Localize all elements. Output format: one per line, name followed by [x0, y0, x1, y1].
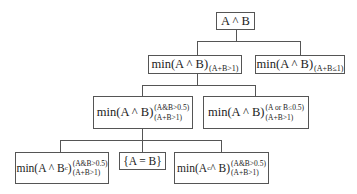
- node-n3-main: min(A ^ B): [97, 105, 154, 120]
- edge-to-n6: [142, 140, 143, 152]
- edge-root-down: [236, 29, 237, 41]
- node-n3: min(A ^ B) (A&B>0.5) (A+B>1): [93, 96, 193, 129]
- node-n5-sub: (A+B>1): [73, 169, 108, 177]
- node-n6-label: {A = B}: [123, 155, 162, 167]
- node-n4: min(A ^ B) (A or B≤0.5) (A+B>1): [203, 96, 309, 129]
- edge-to-n3: [142, 85, 143, 96]
- edge-level1-bar: [197, 41, 301, 42]
- node-n1-sub: (A+B>1): [209, 64, 238, 73]
- node-root: A ^ B: [216, 12, 255, 30]
- node-n1-main: min(A ^ B): [151, 57, 208, 72]
- edge-to-n1: [197, 41, 198, 55]
- node-n5-scripts: (A&B>0.5) (A+B>1): [73, 161, 108, 176]
- node-n7-sup: (A&B>0.5): [231, 160, 266, 168]
- node-n3-sup: (A&B>0.5): [154, 104, 189, 112]
- node-n2: min(A ^ B)(A+B≤1): [255, 55, 345, 74]
- node-n2-sub: (A+B≤1): [314, 64, 343, 73]
- node-n3-sub: (A+B>1): [154, 114, 189, 122]
- node-n5-sup: (A&B>0.5): [73, 160, 108, 168]
- node-n7-main-pre: min(A: [177, 162, 207, 174]
- node-n5: min(A ^ Bc) (A&B>0.5) (A+B>1): [15, 152, 109, 184]
- edge-to-n4: [255, 85, 256, 96]
- node-n5-main-post: ): [68, 162, 72, 174]
- node-n5-main-pre: min(A ^ B: [16, 162, 64, 174]
- node-n4-sub: (A+B>1): [266, 114, 305, 122]
- node-n7: min(Ac ^ B) (A&B>0.5) (A+B>1): [174, 152, 269, 184]
- edge-n3-down: [142, 129, 143, 140]
- node-n6: {A = B}: [119, 152, 166, 170]
- node-n7-main-post: ^ B): [210, 162, 230, 174]
- node-n7-sub: (A+B>1): [231, 169, 266, 177]
- node-n7-scripts: (A&B>0.5) (A+B>1): [231, 161, 266, 176]
- edge-n1-down: [197, 74, 198, 85]
- node-n4-main: min(A ^ B): [208, 105, 265, 120]
- edge-to-n7: [221, 140, 222, 152]
- node-n4-sup: (A or B≤0.5): [266, 104, 305, 112]
- edge-to-n2: [300, 41, 301, 55]
- edge-level3-bar: [60, 140, 222, 141]
- node-n4-scripts: (A or B≤0.5) (A+B>1): [266, 105, 305, 120]
- node-root-label: A ^ B: [221, 14, 250, 29]
- node-n1: min(A ^ B)(A+B>1): [148, 55, 242, 74]
- node-n3-scripts: (A&B>0.5) (A+B>1): [154, 105, 189, 120]
- node-n2-main: min(A ^ B): [257, 57, 314, 72]
- edge-level2-bar: [142, 85, 256, 86]
- edge-to-n5: [60, 140, 61, 152]
